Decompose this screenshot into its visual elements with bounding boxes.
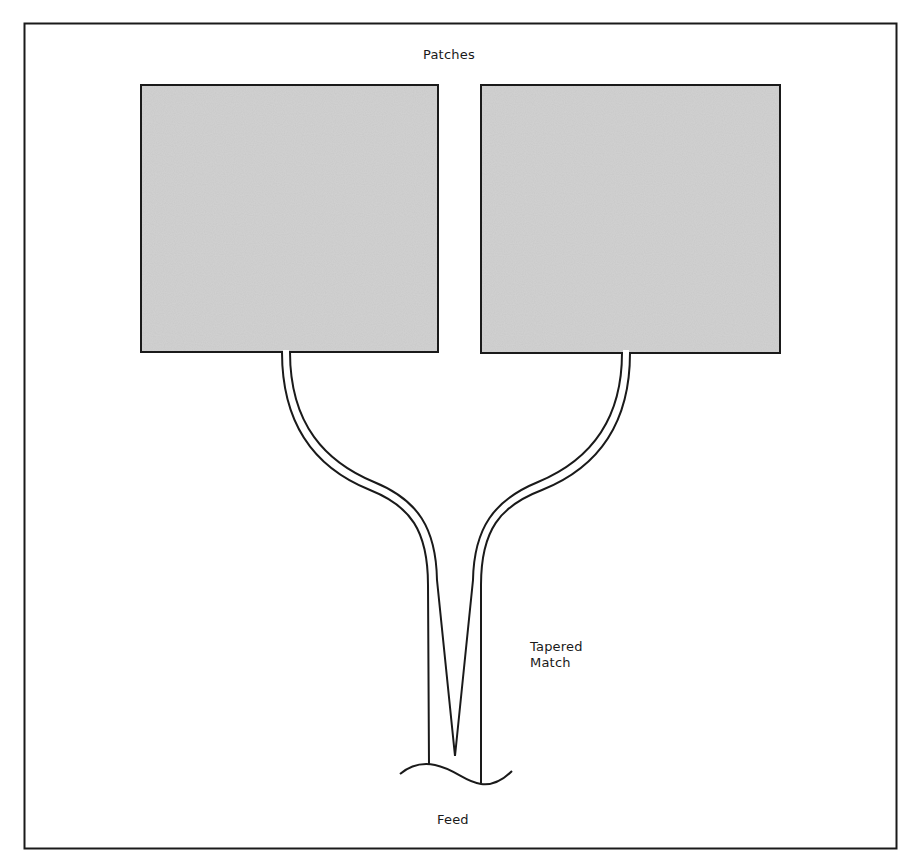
feed-line-left (282, 352, 455, 765)
diagram-svg (0, 0, 898, 865)
patch-right (481, 85, 780, 353)
tapered-match-label-line2: Match (530, 655, 571, 670)
patch-left (141, 85, 438, 352)
tapered-match-label-line1: Tapered (530, 639, 583, 654)
patches-label: Patches (423, 47, 475, 63)
feed-break-line (400, 764, 512, 784)
tapered-match-label: Tapered Match (530, 639, 583, 671)
feed-junction-right (623, 350, 629, 354)
feed-line-right (455, 353, 630, 783)
feed-junction-left (283, 350, 289, 354)
diagram-canvas: Patches Tapered Match Feed (0, 0, 898, 865)
feed-label: Feed (437, 812, 469, 828)
